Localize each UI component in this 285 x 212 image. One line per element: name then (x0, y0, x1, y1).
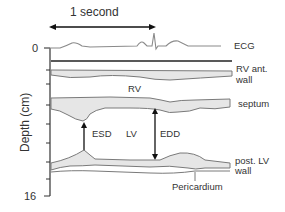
pericardium-label: Pericardium (172, 181, 223, 192)
post-lv-label-2: wall (234, 165, 251, 176)
rv-wall-label-2: wall (235, 74, 252, 85)
m-mode-diagram: 1 second 0 16 Depth (cm) ECG RV ant. wal… (0, 0, 285, 212)
arrow-up-icon (81, 122, 87, 128)
pericardium-line (51, 171, 230, 174)
lv-chamber-label: LV (126, 128, 138, 139)
time-scale: 1 second (49, 5, 156, 30)
time-scale-label: 1 second (70, 5, 119, 19)
tick-label-bottom: 16 (24, 190, 36, 202)
edd-label: EDD (160, 128, 180, 139)
tick-label-top: 0 (32, 42, 38, 54)
septum-label: septum (238, 98, 269, 109)
posterior-lv-wall: post. LV wall (51, 150, 270, 176)
arrow-down-icon (152, 154, 158, 160)
esd-label: ESD (92, 128, 112, 139)
pericardium-annotation: Pericardium (172, 172, 223, 192)
ecg-trace: ECG (44, 33, 255, 51)
arrow-left-icon (49, 24, 56, 30)
y-axis-label: Depth (cm) (18, 93, 32, 152)
ecg-label: ECG (234, 40, 255, 51)
arrow-right-icon (149, 24, 156, 30)
rv-anterior-wall: RV ant. wall (51, 63, 268, 85)
septum: septum (51, 97, 269, 121)
edd-measurement: EDD (152, 108, 180, 160)
rv-wall-label-1: RV ant. (236, 63, 268, 74)
rv-chamber-label: RV (128, 83, 142, 94)
depth-axis: 0 16 Depth (cm) (18, 42, 50, 202)
